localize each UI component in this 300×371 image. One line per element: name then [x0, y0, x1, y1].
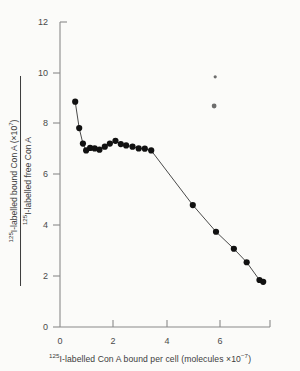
scan-speck-upper — [214, 75, 217, 78]
data-point — [107, 141, 113, 147]
data-point — [96, 147, 102, 153]
y-tick-label-10: 10 — [38, 68, 48, 78]
x-tick-label-4: 4 — [164, 336, 169, 346]
data-point — [112, 138, 118, 144]
data-point — [80, 141, 86, 147]
data-point — [244, 259, 250, 265]
y-denominator-text: I-labelled free Con A — [23, 137, 33, 215]
x-tick-label-6: 6 — [217, 336, 222, 346]
data-point — [142, 146, 148, 152]
y-numerator-text: I-labelled bound Con A (×10 — [9, 126, 19, 232]
y-tick-label-4: 4 — [43, 220, 48, 230]
data-point — [118, 141, 124, 147]
plot-canvas: 0 2 4 6 8 10 12 0 2 4 6 — [0, 0, 300, 371]
binding-curve-points — [72, 99, 266, 285]
data-point — [148, 147, 154, 153]
data-point — [72, 99, 78, 105]
y-tick-label-8: 8 — [43, 118, 48, 128]
x-axis-isotope-superscript: 125 — [49, 352, 60, 359]
x-tick-label-0: 0 — [57, 336, 62, 346]
y-tick-label-12: 12 — [38, 17, 48, 27]
y-axis-denominator: 125I-labelled free Con A — [21, 76, 34, 286]
x-tick-labels: 0 2 4 6 — [57, 336, 222, 346]
y-denominator-isotope-superscript: 125 — [22, 215, 29, 225]
y-tick-label-2: 2 — [43, 271, 48, 281]
x-axis-title: 125I-labelled Con A bound per cell (mole… — [0, 352, 300, 364]
y-numerator-tail: ) — [9, 120, 19, 123]
y-axis-numerator: 125I-labelled bound Con A (×107) — [8, 76, 20, 286]
y-tick-label-6: 6 — [43, 169, 48, 179]
y-tick-group — [53, 73, 60, 327]
data-point — [190, 202, 196, 208]
data-point — [136, 145, 142, 151]
x-tick-label-2: 2 — [110, 336, 115, 346]
data-point — [129, 144, 135, 150]
data-point — [123, 142, 129, 148]
axes-group — [60, 22, 270, 327]
y-axis-title: 125I-labelled bound Con A (×107) 125I-la… — [8, 76, 34, 286]
binding-curve-line — [75, 102, 263, 282]
y-tick-label-0: 0 — [43, 322, 48, 332]
y-numerator-exponent-superscript: 7 — [7, 122, 14, 125]
scan-artifacts — [212, 75, 217, 108]
y-numerator-isotope-superscript: 125 — [7, 232, 14, 242]
data-point — [76, 125, 82, 131]
data-series-group — [72, 99, 266, 285]
scan-speck-lower — [212, 104, 217, 109]
data-point — [213, 229, 219, 235]
y-tick-labels: 0 2 4 6 8 10 12 — [38, 17, 48, 332]
x-axis-title-text: I-labelled Con A bound per cell (molecul… — [59, 354, 240, 364]
data-point — [260, 279, 266, 285]
scatchard-plot-figure: 0 2 4 6 8 10 12 0 2 4 6 125 — [0, 0, 300, 371]
data-point — [231, 246, 237, 252]
x-axis-title-tail: ) — [248, 354, 251, 364]
y-axis-title-wrapper: 125I-labelled bound Con A (×107) 125I-la… — [2, 0, 36, 371]
x-tick-group — [113, 320, 220, 327]
